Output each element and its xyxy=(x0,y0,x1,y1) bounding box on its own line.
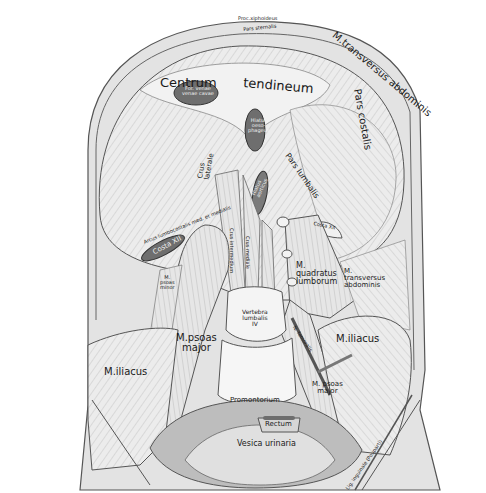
label-m-psoas-minor: M. psoas minor xyxy=(160,275,175,290)
label-vertebra-lumbalis-iv: Vertebra lumbalis IV xyxy=(242,309,268,327)
label-m-psoas-major-left: M.psoas major xyxy=(176,333,217,353)
label-processus-xiphoideus: Proc.xiphoideus xyxy=(238,16,277,21)
promontorium xyxy=(218,338,296,405)
label-crus-mediale: Crus mediale xyxy=(245,236,250,269)
label-crus-intermedium: Crus intermedium xyxy=(229,228,234,273)
label-vesica-urinaria: Vesica urinaria xyxy=(237,440,296,448)
diaphragm-illustration: Proc.xiphoideus Pars sternalis M.transve… xyxy=(0,0,486,493)
label-hiatus-oesophageus: Hiatus oeso- phageus xyxy=(248,118,269,133)
label-m-iliacus-right: M.iliacus xyxy=(336,334,379,344)
label-m-psoas-major-right: M. psoas major xyxy=(312,381,343,395)
label-m-transversus-abdominis-right: M. transversus abdominis xyxy=(344,268,385,289)
anatomy-drawing xyxy=(0,0,486,493)
label-m-quadratus-lumborum: M. quadratus lumborum xyxy=(296,262,337,286)
label-foramen-venae-cavae: For. venae venae cavae xyxy=(182,86,214,96)
label-m-iliacus-left: M.iliacus xyxy=(104,367,147,377)
label-promontorium: Promontorium xyxy=(230,397,280,404)
label-rectum: Rectum xyxy=(265,421,292,428)
